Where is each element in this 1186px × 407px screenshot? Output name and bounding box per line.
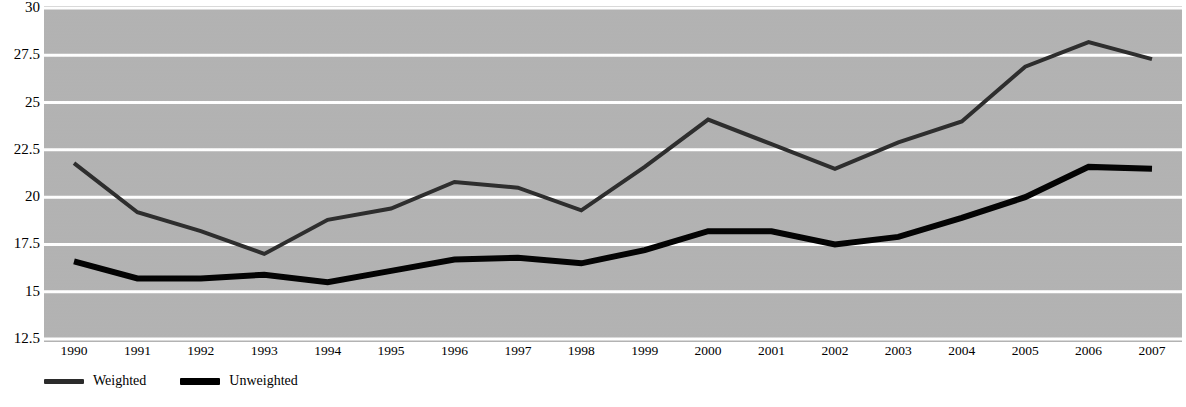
x-tick-label: 1990 <box>44 342 104 360</box>
x-tick-label: 2004 <box>932 342 992 360</box>
x-tick-label: 1996 <box>424 342 484 360</box>
unweighted-line-swatch <box>180 378 220 385</box>
series-lines <box>74 42 1152 282</box>
legend-label: Weighted <box>93 373 146 389</box>
series-line-unweighted <box>74 167 1152 282</box>
plot-canvas <box>44 6 1182 342</box>
x-tick-label: 2000 <box>678 342 738 360</box>
legend-item-weighted[interactable]: Weighted <box>44 373 146 389</box>
y-tick-label: 30 <box>0 0 40 15</box>
x-tick-label: 1991 <box>107 342 167 360</box>
y-tick-label: 27.5 <box>0 47 40 62</box>
x-tick-label: 1992 <box>171 342 231 360</box>
y-tick-label: 22.5 <box>0 142 40 157</box>
legend-item-unweighted[interactable]: Unweighted <box>180 373 297 389</box>
line-chart: 3027.52522.52017.51512.5 199019911992199… <box>0 0 1186 407</box>
x-tick-label: 1995 <box>361 342 421 360</box>
x-tick-label: 2002 <box>805 342 865 360</box>
x-tick-label: 1997 <box>488 342 548 360</box>
plot-area <box>44 6 1182 342</box>
weighted-line-swatch <box>44 379 84 384</box>
x-tick-label: 1994 <box>298 342 358 360</box>
gridlines <box>44 8 1182 339</box>
series-line-weighted <box>74 42 1152 254</box>
x-tick-label: 1999 <box>615 342 675 360</box>
chart-legend: WeightedUnweighted <box>44 368 298 394</box>
x-tick-label: 2005 <box>995 342 1055 360</box>
x-axis: 1990199119921993199419951996199719981999… <box>44 342 1182 364</box>
y-tick-label: 15 <box>0 284 40 299</box>
y-tick-label: 12.5 <box>0 331 40 346</box>
y-tick-label: 17.5 <box>0 236 40 251</box>
y-axis: 3027.52522.52017.51512.5 <box>0 0 40 348</box>
x-tick-label: 2006 <box>1059 342 1119 360</box>
x-tick-label: 2003 <box>868 342 928 360</box>
x-tick-label: 1998 <box>551 342 611 360</box>
x-tick-label: 2007 <box>1122 342 1182 360</box>
x-tick-label: 2001 <box>742 342 802 360</box>
x-tick-label: 1993 <box>234 342 294 360</box>
y-tick-label: 25 <box>0 95 40 110</box>
y-tick-label: 20 <box>0 189 40 204</box>
legend-label: Unweighted <box>229 373 297 389</box>
